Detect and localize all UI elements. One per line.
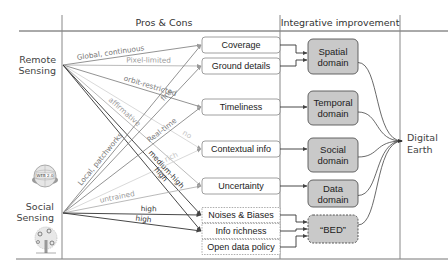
social-tree-icon — [35, 227, 57, 253]
aspect-label: Ground details — [212, 61, 271, 71]
diagram-canvas: Pros & Cons Integrative improvement Remo… — [0, 0, 448, 273]
aspect-label: Open data policy — [207, 242, 275, 252]
link-ground-spatial — [280, 60, 307, 66]
edge-group — [63, 45, 201, 231]
source-remote-line1: Remote — [19, 54, 56, 65]
aspect-box-ground: Ground details — [202, 58, 280, 74]
domain-box-temporal: Temporaldomain — [308, 91, 358, 125]
edge-remote-timeliness — [63, 65, 201, 107]
aspect-label: Uncertainty — [218, 181, 264, 191]
domain-label: domain — [317, 155, 348, 166]
domain-label: domain — [317, 108, 348, 119]
domain-box-bed: “BED” — [308, 215, 358, 243]
aspect-box-richness: Info richness — [202, 224, 280, 239]
target-digital-earth-line1: Digital — [407, 132, 438, 143]
link-richness-bed — [280, 229, 307, 231]
curve-social-to-earth — [358, 141, 402, 157]
domain-label: domain — [317, 194, 348, 205]
domain-box-social: Socialdomain — [308, 138, 358, 172]
domain-label: domain — [317, 57, 348, 68]
edge-label: no — [181, 128, 194, 141]
web2-globe-icon: WEB 2.0 — [32, 165, 58, 187]
edge-social-richness — [63, 213, 201, 231]
source-remote-line2: Sensing — [18, 65, 56, 76]
curve-temporal-to-earth — [358, 112, 402, 141]
aspect-box-contextual: Contextual info — [202, 141, 280, 157]
integration-diagram: Pros & Cons Integrative improvement Remo… — [0, 0, 448, 273]
domain-label: Social — [320, 144, 346, 155]
link-opendata-bed — [280, 236, 307, 247]
domain-label: “BED” — [320, 224, 346, 235]
header-integrative: Integrative improvement — [281, 17, 400, 28]
edge-remote-ground — [63, 65, 201, 66]
aspect-label: Contextual info — [211, 144, 271, 154]
source-social-line1: Social — [26, 201, 54, 212]
aspect-label: Info richness — [215, 226, 267, 236]
header-pros-cons: Pros & Cons — [136, 17, 193, 28]
aspect-box-uncertainty: Uncertainty — [202, 178, 280, 194]
domain-label: Temporal — [313, 97, 352, 108]
aspect-label: Timeliness — [220, 102, 263, 112]
aspect-box-noises: Noises & Biases — [202, 208, 280, 223]
aspect-group: CoverageGround detailsTimelinessContextu… — [202, 37, 280, 255]
svg-text:WEB 2.0: WEB 2.0 — [37, 173, 54, 178]
target-digital-earth-line2: Earth — [407, 144, 432, 155]
edge-label: high — [141, 204, 157, 213]
aspect-box-coverage: Coverage — [202, 37, 280, 53]
aspect-box-opendata: Open data policy — [202, 240, 280, 255]
domain-box-spatial: Spatialdomain — [308, 39, 358, 74]
edge-remote-richness — [63, 65, 201, 231]
edge-label: rich — [163, 150, 179, 164]
aspect-label: Noises & Biases — [208, 210, 274, 220]
domain-label: Data — [323, 183, 344, 194]
earth-curve-group — [358, 63, 403, 226]
aspect-box-timeliness: Timeliness — [202, 99, 280, 115]
edge-social-noises — [63, 213, 201, 215]
edge-label: Local, patchworks — [76, 131, 125, 188]
domain-group: SpatialdomainTemporaldomainSocialdomainD… — [308, 39, 358, 243]
curve-data-to-earth — [358, 141, 402, 196]
edge-label: Pixel-limited — [126, 55, 171, 64]
aspect-label: Coverage — [221, 40, 260, 50]
domain-label: Spatial — [318, 46, 347, 57]
link-noises-bed — [280, 215, 307, 222]
curve-bed-to-earth — [358, 141, 402, 225]
domain-link-group — [280, 45, 307, 247]
link-coverage-spatial — [280, 45, 307, 53]
domain-box-data: Datadomain — [308, 180, 358, 207]
source-social-line2: Sensing — [16, 212, 54, 223]
